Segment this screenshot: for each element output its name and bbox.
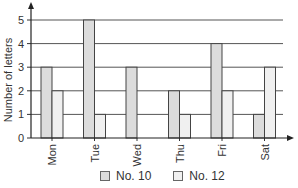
bar (222, 91, 233, 138)
x-tick-label: Mon (46, 144, 58, 165)
bar (211, 44, 222, 138)
bar (95, 114, 106, 138)
x-tick-label: Sat (259, 144, 271, 161)
bar (84, 20, 95, 138)
legend-item-no10: No. 10 (100, 169, 151, 183)
x-tick-label: Wed (131, 144, 143, 166)
bar-chart: 012345 MonTueWedThuFriSat Number of lett… (0, 0, 298, 188)
bar (126, 67, 137, 138)
y-tick-label: 4 (18, 38, 24, 50)
legend-item-no12: No. 12 (173, 169, 224, 183)
y-tick-label: 5 (18, 14, 24, 26)
legend-label-no10: No. 10 (116, 169, 151, 183)
bar (52, 91, 63, 138)
bar (180, 114, 191, 138)
legend: No. 10 No. 12 (100, 169, 225, 183)
y-tick-labels: 012345 (18, 14, 24, 144)
y-axis-arrow-icon (28, 2, 34, 9)
x-tick-label: Tue (89, 144, 101, 163)
x-tick-label: Fri (216, 144, 228, 157)
bar (41, 67, 52, 138)
y-tick-label: 1 (18, 108, 24, 120)
y-tick-label: 2 (18, 85, 24, 97)
bars (41, 20, 276, 138)
bar (169, 91, 180, 138)
y-axis-label: Number of letters (2, 37, 14, 122)
legend-label-no12: No. 12 (189, 169, 224, 183)
y-tick-label: 3 (18, 61, 24, 73)
x-tick-labels: MonTueWedThuFriSat (46, 144, 271, 166)
legend-swatch-no10 (100, 171, 110, 181)
x-axis-arrow-icon (287, 135, 294, 141)
bar (254, 114, 265, 138)
legend-swatch-no12 (173, 171, 183, 181)
y-tick-label: 0 (18, 132, 24, 144)
bar (265, 67, 276, 138)
gridlines (31, 20, 283, 114)
x-tick-label: Thu (174, 144, 186, 163)
